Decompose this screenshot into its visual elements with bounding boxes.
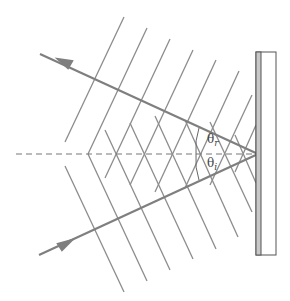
reflected-ray (40, 54, 258, 154)
theta-i-label: θi (207, 156, 217, 172)
theta-r-label: θr (207, 132, 219, 148)
diagram-graphic (0, 0, 290, 301)
mirror (256, 52, 276, 255)
incident-arrowhead (58, 240, 72, 250)
reflection-diagram: θr θi (0, 0, 290, 301)
